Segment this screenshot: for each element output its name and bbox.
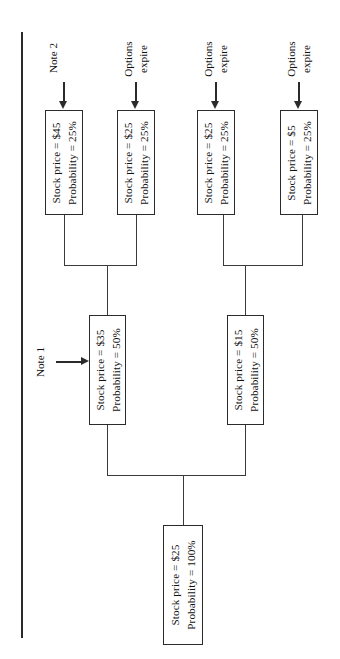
leaf-node-3-probability: Probability = 25% [216, 121, 232, 205]
leaf-node-4-price: Stock price = $5 [283, 125, 299, 200]
options-expire-line2-3: expire [299, 45, 314, 73]
root-node-probability: Probability = 100% [183, 540, 199, 630]
note-2-callout: Note 2 [31, 32, 75, 84]
note-2-arrow-shaft [63, 82, 65, 103]
leaf-node-1: Stock price = $45 Probability = 25% [45, 110, 83, 215]
connector-mid1-drop [107, 425, 108, 475]
root-node: Stock price = $25 Probability = 100% [163, 525, 203, 645]
leaf-node-3-price: Stock price = $25 [200, 122, 216, 203]
connector-root-stem [183, 475, 184, 525]
leaf-node-2-probability: Probability = 25% [136, 121, 152, 205]
options-expire-line1-3: Options [284, 41, 299, 76]
options-expire-arrow-shaft-2 [215, 82, 217, 103]
note-1-arrow-shaft [56, 361, 82, 363]
mid-node-1-price: Stock price = $35 [92, 329, 108, 410]
options-expire-callout-3: Options expire [268, 28, 330, 90]
connector-leaf12-bridge [64, 265, 137, 266]
connector-leaf2-drop [136, 215, 137, 265]
mid-node-1: Stock price = $35 Probability = 50% [89, 315, 126, 425]
leaf-node-4-probability: Probability = 25% [299, 121, 315, 205]
leaf-node-4: Stock price = $5 Probability = 25% [280, 110, 318, 215]
connector-leaf1-drop [64, 215, 65, 265]
connector-leaf34-bridge [223, 265, 303, 266]
options-expire-callout-2: Options expire [185, 28, 247, 90]
mid-node-2: Stock price = $15 Probability = 50% [227, 315, 264, 425]
options-expire-arrow-head-icon-3 [294, 101, 302, 109]
connector-mid12-bridge [107, 475, 246, 476]
leaf-node-1-probability: Probability = 25% [64, 121, 80, 205]
diagram-canvas: Note 2 Stock price = $45 Probability = 2… [0, 0, 340, 659]
options-expire-callout-1: Options expire [105, 28, 167, 90]
options-expire-arrow-head-icon-2 [211, 101, 219, 109]
options-expire-line1-2: Options [201, 41, 216, 76]
root-node-price: Stock price = $25 [167, 544, 183, 625]
options-expire-line2-1: expire [136, 45, 151, 73]
connector-leaf3-drop [223, 215, 224, 265]
options-expire-line2-2: expire [216, 45, 231, 73]
leaf-node-1-price: Stock price = $45 [48, 122, 64, 203]
note-1-label: Note 1 [33, 347, 48, 377]
page-border-rule [21, 32, 23, 638]
options-expire-arrow-shaft-1 [135, 82, 137, 103]
note-2-arrow-head-icon [59, 101, 67, 109]
options-expire-arrow-shaft-3 [298, 82, 300, 103]
connector-mid2-drop [245, 425, 246, 475]
mid-node-2-price: Stock price = $15 [230, 329, 246, 410]
leaf-node-3: Stock price = $25 Probability = 25% [197, 110, 235, 215]
leaf-node-2-price: Stock price = $25 [120, 122, 136, 203]
leaf-node-2: Stock price = $25 Probability = 25% [117, 110, 155, 215]
mid-node-1-probability: Probability = 50% [108, 328, 124, 412]
connector-leaf4-drop [302, 215, 303, 265]
note-1-arrow-head-icon [81, 357, 89, 365]
options-expire-arrow-head-icon-1 [131, 101, 139, 109]
connector-mid2-stem [245, 265, 246, 315]
connector-mid1-stem [107, 265, 108, 315]
options-expire-line1-1: Options [121, 41, 136, 76]
note-2-label: Note 2 [46, 43, 61, 73]
mid-node-2-probability: Probability = 50% [246, 328, 262, 412]
